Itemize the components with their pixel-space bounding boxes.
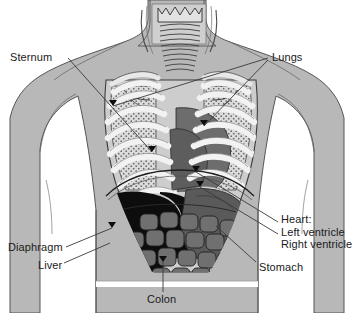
anatomy-figure: Sternum Lungs Heart: Left ventricle Righ… [0, 0, 353, 313]
label-sternum: Sternum [10, 51, 52, 64]
label-stomach: Stomach [259, 261, 303, 274]
label-diaphragm: Diaphragm [8, 241, 63, 254]
label-heart-group: Heart: Left ventricle Right ventricle [281, 213, 352, 251]
label-heart: Heart: [281, 213, 352, 226]
label-left-ventricle: Left ventricle [281, 226, 352, 239]
label-liver: Liver [38, 259, 62, 272]
label-colon: Colon [147, 293, 176, 306]
label-right-ventricle: Right ventricle [281, 238, 352, 251]
label-lungs: Lungs [272, 51, 302, 64]
